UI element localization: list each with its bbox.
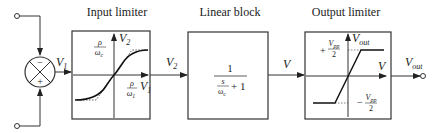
v-label: V <box>283 57 292 71</box>
svg-text:2: 2 <box>332 50 336 59</box>
summing-junction: − + <box>25 57 55 87</box>
svg-text:2: 2 <box>369 104 373 113</box>
tf-numerator: 1 <box>227 62 233 74</box>
v1-label: V1 <box>56 55 67 71</box>
v2-label: V2 <box>166 55 177 71</box>
plus-sign: + <box>37 76 43 87</box>
output-limiter-block: + Vpp 2 − Vpp 2 Vout V <box>305 31 391 119</box>
neg-sign: − <box>357 97 363 108</box>
minus-sign: − <box>37 57 43 68</box>
input-limiter-title: Input limiter <box>87 5 147 19</box>
output-limiter-title: Output limiter <box>312 5 380 19</box>
input-terminal-bottom <box>15 89 41 129</box>
svg-text:ρ: ρ <box>97 38 102 47</box>
block-diagram: − + V1 Input limiter ρ ωc ρ ω1 V2 V1 V2 … <box>0 0 443 133</box>
tf-den-plus-one: + 1 <box>231 80 245 92</box>
linear-block: 1 s ωc + 1 <box>188 32 268 119</box>
input-limiter-block: ρ ωc ρ ω1 V2 V1 <box>72 31 151 119</box>
pos-sign: + <box>320 45 326 56</box>
linear-block-title: Linear block <box>200 5 261 19</box>
input-terminal-top <box>15 14 41 56</box>
vout-label: Vout <box>405 55 423 71</box>
svg-text:s: s <box>221 77 224 86</box>
svg-text:ρ: ρ <box>129 79 134 88</box>
output-terminal <box>421 74 426 79</box>
